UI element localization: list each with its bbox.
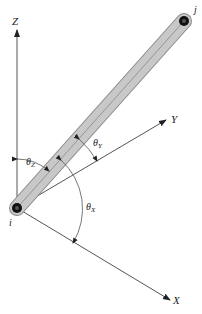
theta-z-label: θZ (26, 156, 35, 169)
node-j-label: j (192, 4, 197, 15)
y-axis-label: Y (171, 113, 179, 125)
x-axis-label: X (172, 294, 181, 306)
z-axis-label: Z (12, 15, 19, 27)
theta-x-arc (61, 160, 83, 243)
theta-x-label: θX (86, 201, 96, 214)
theta-y-label: θY (93, 137, 103, 150)
member-bar (17, 21, 184, 208)
node-i (12, 203, 22, 213)
node-i-label: i (9, 217, 12, 228)
member-orientation-diagram: Z Y X i j θZ θY θX (0, 0, 202, 314)
node-j (179, 16, 189, 26)
x-axis (17, 208, 170, 300)
